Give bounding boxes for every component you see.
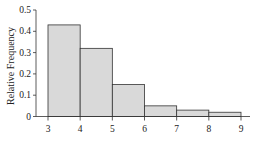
y-tick-label: 0.5 xyxy=(19,5,31,15)
histogram-bar xyxy=(209,112,241,116)
histogram-chart: 00.10.20.30.40.5 3456789 Relative Freque… xyxy=(0,0,254,141)
y-tick-label: 0.2 xyxy=(19,69,31,79)
histogram-bar xyxy=(145,106,177,117)
x-tick-label: 5 xyxy=(110,124,115,134)
x-tick-label: 3 xyxy=(46,124,51,134)
y-tick-label: 0.3 xyxy=(19,48,31,58)
y-tick-label: 0.1 xyxy=(19,90,31,100)
histogram-bar xyxy=(80,48,112,116)
histogram-bar xyxy=(177,110,209,116)
x-tick-label: 7 xyxy=(174,124,179,134)
y-tick-label: 0 xyxy=(26,112,31,122)
x-tick-label: 8 xyxy=(206,124,211,134)
histogram-bars xyxy=(48,25,241,117)
histogram-bar xyxy=(48,25,80,117)
histogram-bar xyxy=(112,85,144,117)
x-tick-label: 4 xyxy=(78,124,83,134)
x-axis: 3456789 xyxy=(36,117,250,134)
x-tick-label: 6 xyxy=(142,124,147,134)
y-tick-label: 0.4 xyxy=(19,26,31,36)
y-axis-title: Relative Frequency xyxy=(5,27,16,105)
y-axis: 00.10.20.30.40.5 xyxy=(19,5,36,122)
x-tick-label: 9 xyxy=(239,124,244,134)
